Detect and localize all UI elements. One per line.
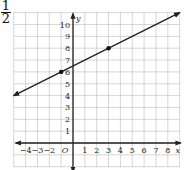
y-tick-label: 9 — [65, 32, 70, 41]
data-point — [106, 46, 110, 50]
y-tick-label: 4 — [65, 92, 70, 101]
x-tick-label: 2 — [94, 146, 99, 155]
x-tick-label: 1 — [82, 146, 87, 155]
coordinate-plane: −4−3−212345678Ox12345678910y — [0, 0, 186, 170]
x-tick-label: 4 — [118, 146, 123, 155]
x-tick-label: 7 — [153, 146, 158, 155]
x-tick-label: 6 — [142, 146, 147, 155]
y-tick-label: 7 — [65, 56, 70, 65]
y-tick-label: 8 — [65, 44, 70, 53]
x-tick-label: −2 — [43, 146, 55, 155]
x-axis-label: x — [175, 146, 180, 155]
x-tick-label: 8 — [165, 146, 170, 155]
x-tick-label: 5 — [130, 146, 135, 155]
y-axis-label: y — [75, 14, 81, 23]
origin-label: O — [62, 146, 69, 155]
x-tick-label: −4 — [20, 146, 32, 155]
x-tick-label: 3 — [106, 146, 111, 155]
x-tick-label: −3 — [32, 146, 44, 155]
y-tick-label: 1 — [65, 127, 70, 136]
y-tick-label: 5 — [65, 80, 70, 89]
y-tick-label: 10 — [60, 21, 70, 30]
y-tick-label: 2 — [65, 115, 70, 124]
y-tick-label: 3 — [65, 103, 70, 112]
data-point — [59, 70, 63, 74]
